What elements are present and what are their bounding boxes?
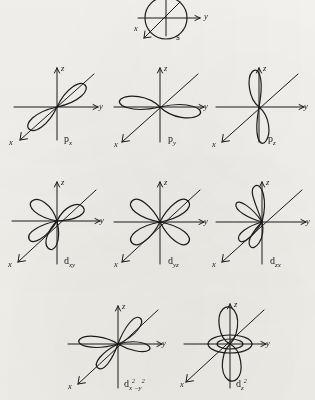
orbital-label-px: px — [64, 134, 72, 147]
dz2-lobe-bottom — [222, 344, 241, 381]
axis-label-x: x — [134, 24, 138, 33]
dx2y2-lobe-x-pos — [118, 317, 142, 344]
axis-label-x: x — [68, 382, 72, 391]
axis-label-y: y — [304, 102, 308, 111]
axis-label-y: y — [204, 102, 208, 111]
axis-label-z: z — [234, 300, 237, 309]
orbital-label-dyz: dyz — [168, 256, 179, 269]
axis-label-z: z — [164, 178, 167, 187]
orbital-cell-py: x y z py — [108, 62, 212, 150]
orbital-cell-pz: x y z pz — [212, 62, 312, 150]
orbital-cell-dxy: x y z dxy — [6, 176, 106, 272]
axis-label-y: y — [204, 12, 208, 21]
orbital-cell-dzx: x y z dzx — [212, 176, 312, 272]
dz2-lobe-top — [219, 307, 238, 344]
orbital-label-py: py — [168, 134, 176, 147]
orbital-cell-s: x y s — [118, 0, 214, 54]
axis-label-y: y — [266, 339, 270, 348]
axis-label-x: x — [212, 140, 216, 149]
axis-label-z: z — [164, 64, 167, 73]
orbital-cell-px: x y z px — [6, 62, 106, 150]
axis-x-line — [144, 2, 180, 38]
dyz-lobe-4 — [160, 222, 190, 245]
axis-x-line — [186, 310, 264, 382]
axis-label-x: x — [114, 260, 118, 269]
axis-label-z: z — [266, 178, 269, 187]
axis-label-x: x — [180, 380, 184, 389]
axis-label-y: y — [100, 216, 104, 225]
axis-label-z: z — [122, 302, 125, 311]
orbital-label-pz: pz — [268, 134, 276, 147]
dxy-lobe-1 — [30, 200, 57, 221]
dx2y2-lobe-y-neg — [79, 336, 118, 347]
dyz-lobe-3 — [130, 222, 160, 245]
orbital-cell-dz2: x y z dz2 — [180, 300, 290, 396]
orbital-label-dzx: dzx — [270, 256, 281, 269]
orbital-label-dx2y2: dx2–y2 — [124, 378, 145, 392]
orbital-label-dxy: dxy — [64, 256, 75, 269]
dyz-lobe-2 — [160, 199, 190, 222]
orbital-label-s: s — [176, 32, 180, 42]
orbital-cell-dyz: x y z dyz — [108, 176, 212, 272]
axis-label-z: z — [263, 64, 266, 73]
orbital-cell-dx2y2: x y z dx2–y2 — [62, 300, 172, 396]
axis-label-x: x — [114, 140, 118, 149]
axis-label-x: x — [8, 260, 12, 269]
axis-label-y: y — [204, 217, 208, 226]
dx2y2-lobe-y-pos — [118, 342, 150, 352]
axis-label-x: x — [212, 260, 216, 269]
axis-label-y: y — [162, 339, 166, 348]
axis-label-y: y — [99, 102, 103, 111]
dyz-lobe-1 — [130, 199, 160, 222]
orbital-label-dz2: dz2 — [236, 378, 247, 392]
axis-label-y: y — [306, 217, 310, 226]
axis-label-z: z — [61, 178, 64, 187]
axis-label-z: z — [61, 64, 64, 73]
axis-label-x: x — [9, 138, 13, 147]
